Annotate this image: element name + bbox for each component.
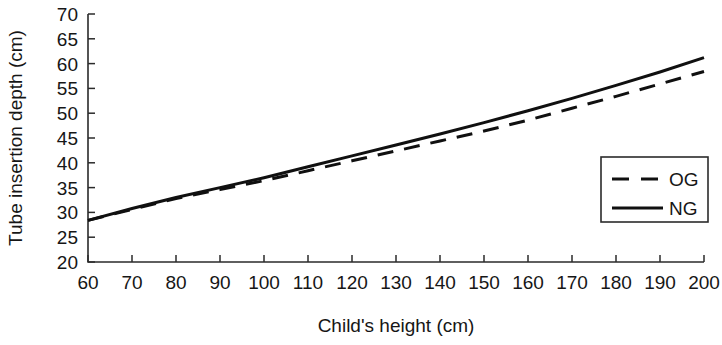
- x-tick-label: 140: [424, 272, 456, 293]
- x-tick-label: 110: [293, 272, 323, 293]
- legend-label-ng: NG: [669, 198, 698, 219]
- x-tick-label: 100: [248, 272, 280, 293]
- chart-legend: OGNG: [601, 157, 708, 222]
- x-tick-label: 180: [600, 272, 632, 293]
- y-tick-labels: 2025303540455055606570: [57, 4, 78, 273]
- x-tick-label: 170: [556, 272, 588, 293]
- chart-figure: 6070809010011012013014015016017018019020…: [0, 0, 722, 345]
- y-tick-label: 65: [57, 29, 78, 50]
- y-tick-label: 30: [57, 202, 78, 223]
- x-axis-title: Child's height (cm): [318, 315, 475, 336]
- x-tick-label: 90: [209, 272, 230, 293]
- x-tick-label: 150: [468, 272, 500, 293]
- y-axis-title: Tube insertion depth (cm): [5, 30, 26, 246]
- y-tick-label: 50: [57, 103, 78, 124]
- y-tick-label: 55: [57, 78, 78, 99]
- axis-lines: [88, 14, 704, 262]
- x-tick-label: 160: [512, 272, 544, 293]
- x-tick-label: 130: [380, 272, 412, 293]
- line-chart: 6070809010011012013014015016017018019020…: [0, 0, 722, 345]
- y-tick-label: 40: [57, 153, 78, 174]
- x-tick-label: 200: [688, 272, 720, 293]
- x-tick-labels: 6070809010011012013014015016017018019020…: [77, 272, 719, 293]
- y-tick-label: 25: [57, 227, 78, 248]
- x-tick-label: 60: [77, 272, 98, 293]
- y-tick-label: 45: [57, 128, 78, 149]
- y-tick-label: 70: [57, 4, 78, 25]
- x-tick-label: 120: [336, 272, 368, 293]
- y-tick-label: 60: [57, 54, 78, 75]
- x-tick-label: 190: [644, 272, 676, 293]
- tick-marks: [88, 14, 704, 262]
- x-tick-label: 80: [165, 272, 186, 293]
- legend-label-og: OG: [669, 169, 699, 190]
- axes: [88, 14, 704, 262]
- x-tick-label: 70: [121, 272, 142, 293]
- y-tick-label: 35: [57, 178, 78, 199]
- y-tick-label: 20: [57, 252, 78, 273]
